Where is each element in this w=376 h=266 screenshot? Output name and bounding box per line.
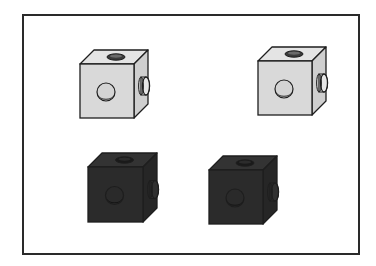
front-hole-icon <box>226 189 244 207</box>
front-hole-icon <box>275 80 293 98</box>
cube-bottom-right <box>209 156 279 224</box>
top-hole-inner <box>119 158 131 161</box>
front-hole-icon <box>97 83 115 101</box>
front-hole-icon <box>106 187 124 205</box>
cube-group <box>80 47 328 224</box>
cube-bottom-left <box>88 153 159 222</box>
top-hole-inner <box>110 55 122 58</box>
cube-top-left <box>80 50 150 118</box>
top-hole-inner <box>288 52 300 55</box>
top-hole-inner <box>239 161 251 164</box>
figure-canvas <box>0 0 376 266</box>
cube-top-right <box>258 47 328 115</box>
